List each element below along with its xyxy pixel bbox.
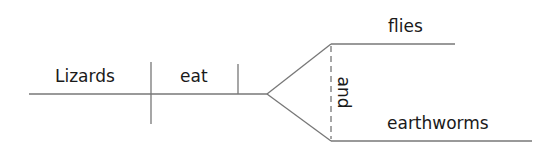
sentence-diagram: Lizards eat flies and earthworms [0, 0, 555, 155]
subject-word: Lizards [55, 68, 115, 85]
verb-word: eat [180, 68, 208, 85]
conjunction-word: and [335, 77, 352, 109]
object-2-word: earthworms [387, 115, 489, 132]
fork-lower-branch [267, 94, 331, 141]
fork-upper-branch [267, 44, 331, 94]
object-1-word: flies [388, 18, 423, 35]
